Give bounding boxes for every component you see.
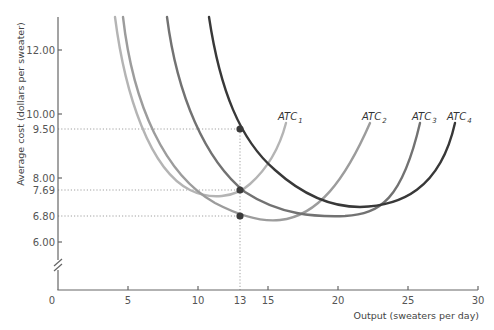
atc3-label: ATC3 [411, 111, 437, 125]
point-atc4-13 [236, 125, 243, 132]
svg-text:0: 0 [49, 295, 55, 306]
point-atc3-13 [236, 186, 243, 193]
svg-text:15: 15 [262, 295, 275, 306]
svg-text:12.00: 12.00 [26, 45, 55, 56]
axes [54, 17, 478, 290]
y-axis-title: Average cost (dollars per sweater) [15, 22, 26, 186]
y-tick-labels: 12.00 10.00 9.50 8.00 7.69 6.80 6.00 [26, 45, 55, 248]
point-atc2-13 [236, 212, 243, 219]
svg-text:6.80: 6.80 [33, 211, 55, 222]
svg-text:30: 30 [472, 295, 485, 306]
x-tick-labels: 0 5 10 13 15 20 25 30 [49, 295, 485, 306]
svg-text:13: 13 [234, 295, 247, 306]
atc4-label: ATC4 [446, 111, 472, 125]
atc2-curve [123, 17, 370, 220]
svg-text:10: 10 [192, 295, 205, 306]
svg-text:5: 5 [125, 295, 131, 306]
atc1-label: ATC1 [277, 111, 303, 125]
curve-labels: ATC1 ATC2 ATC3 ATC4 [277, 111, 472, 125]
guide-lines [58, 129, 240, 290]
chart-canvas: 12.00 10.00 9.50 8.00 7.69 6.80 6.00 0 5… [0, 0, 494, 330]
svg-text:10.00: 10.00 [26, 109, 55, 120]
svg-text:20: 20 [332, 295, 345, 306]
svg-text:6.00: 6.00 [33, 237, 55, 248]
atc1-curve [115, 17, 286, 196]
atc2-label: ATC2 [361, 111, 387, 125]
svg-text:8.00: 8.00 [33, 173, 55, 184]
x-axis-title: Output (sweaters per day) [353, 310, 479, 321]
svg-text:25: 25 [402, 295, 415, 306]
svg-text:7.69: 7.69 [33, 185, 55, 196]
svg-text:9.50: 9.50 [33, 124, 55, 135]
